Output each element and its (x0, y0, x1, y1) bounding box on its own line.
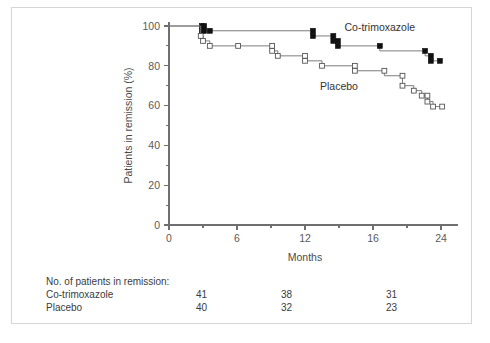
data-point-placebo (275, 53, 280, 58)
data-point-placebo (201, 39, 206, 44)
risk-row-label: Co-trimoxazole (46, 288, 196, 301)
y-tick-label: 100 (142, 20, 160, 32)
data-point-co-trimoxazole (202, 28, 207, 33)
y-tick-label: 40 (148, 139, 160, 151)
data-point-placebo (352, 63, 357, 68)
risk-table-row: Co-trimoxazole413831 (46, 288, 451, 301)
data-point-placebo (431, 104, 436, 109)
data-point-placebo (440, 104, 445, 109)
risk-row-value: 40 (196, 301, 281, 314)
data-point-co-trimoxazole (437, 58, 442, 63)
data-point-co-trimoxazole (202, 24, 207, 29)
y-tick-label: 80 (148, 60, 160, 72)
data-point-placebo (303, 53, 308, 58)
x-tick-label: 24 (435, 232, 447, 244)
data-point-placebo (352, 68, 357, 73)
y-tick-label: 60 (148, 99, 160, 111)
risk-table-caption: No. of patients in remission: (46, 276, 466, 288)
figure-page: 02040608010006121624 MonthsPatients in r… (0, 0, 490, 343)
data-point-co-trimoxazole (428, 53, 433, 58)
data-point-co-trimoxazole (310, 28, 315, 33)
risk-row-value: 38 (281, 288, 386, 301)
risk-row-value: 41 (196, 288, 281, 301)
plot-series (169, 24, 445, 109)
data-point-placebo (400, 73, 405, 78)
series-annotation-1: Co-trimoxazole (344, 21, 415, 33)
data-point-co-trimoxazole (207, 28, 212, 33)
series-annotation-2: Placebo (320, 80, 358, 92)
data-point-placebo (270, 44, 275, 49)
x-tick-label: 0 (166, 232, 172, 244)
x-axis-title: Months (288, 251, 322, 263)
risk-row-value: 23 (386, 301, 451, 314)
data-point-co-trimoxazole (335, 38, 340, 43)
numbers-at-risk-table: No. of patients in remission: Co-trimoxa… (46, 276, 466, 314)
data-point-co-trimoxazole (423, 48, 428, 53)
plot-text-labels: MonthsPatients in remission (%)Co-trimox… (122, 21, 415, 263)
data-point-placebo (425, 93, 430, 98)
plot-axes: 02040608010006121624 (142, 20, 458, 244)
series-line-placebo (169, 26, 442, 107)
x-tick-label: 16 (367, 232, 379, 244)
risk-row-value: 31 (386, 288, 451, 301)
risk-row-value: 32 (281, 301, 386, 314)
data-point-placebo (320, 63, 325, 68)
data-point-co-trimoxazole (331, 33, 336, 38)
data-point-placebo (207, 44, 212, 49)
data-point-placebo (411, 88, 416, 93)
data-point-placebo (236, 44, 241, 49)
data-point-placebo (419, 93, 424, 98)
x-tick-label: 12 (299, 232, 311, 244)
risk-row-label: Placebo (46, 301, 196, 314)
data-point-placebo (270, 48, 275, 53)
y-tick-label: 0 (154, 219, 160, 231)
risk-table-row: Placebo403223 (46, 301, 451, 314)
data-point-co-trimoxazole (310, 33, 315, 38)
data-point-placebo (198, 34, 203, 39)
data-point-placebo (303, 58, 308, 63)
data-point-placebo (382, 68, 387, 73)
data-point-placebo (425, 99, 430, 104)
data-point-co-trimoxazole (335, 43, 340, 48)
x-tick-label: 6 (234, 232, 240, 244)
data-point-co-trimoxazole (428, 58, 433, 63)
y-axis-title: Patients in remission (%) (122, 67, 134, 183)
figure-frame: 02040608010006121624 MonthsPatients in r… (11, 7, 472, 324)
data-point-co-trimoxazole (377, 43, 382, 48)
data-point-placebo (400, 83, 405, 88)
y-tick-label: 20 (148, 179, 160, 191)
risk-table-grid: Co-trimoxazole413831Placebo403223 (46, 288, 451, 314)
